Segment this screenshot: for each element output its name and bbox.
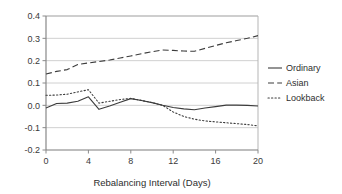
chart-figure: 0.40.30.20.10.0-0.1-0.2 048121620 Rebala… bbox=[0, 0, 342, 194]
y-tick-label: 0.3 bbox=[27, 34, 40, 44]
x-tick-label: 16 bbox=[211, 156, 221, 166]
x-tick-label: 0 bbox=[43, 156, 48, 166]
y-tick-label: 0.2 bbox=[27, 56, 40, 66]
y-tick-label: 0.1 bbox=[27, 78, 40, 88]
legend-label-asian: Asian bbox=[286, 78, 309, 88]
y-tick-label: 0.4 bbox=[27, 11, 40, 21]
legend-label-lookback: Lookback bbox=[286, 93, 325, 103]
x-tick-label: 12 bbox=[168, 156, 178, 166]
y-tick-label: 0.0 bbox=[27, 101, 40, 111]
x-tick-label: 20 bbox=[253, 156, 263, 166]
x-tick-label: 8 bbox=[128, 156, 133, 166]
y-tick-label: -0.1 bbox=[24, 123, 40, 133]
x-axis-title: Rebalancing Interval (Days) bbox=[93, 177, 210, 188]
legend-label-ordinary: Ordinary bbox=[286, 63, 321, 73]
x-tick-label: 4 bbox=[86, 156, 91, 166]
y-tick-label: -0.2 bbox=[24, 145, 40, 155]
chart-canvas: 0.40.30.20.10.0-0.1-0.2 048121620 Rebala… bbox=[0, 0, 342, 194]
